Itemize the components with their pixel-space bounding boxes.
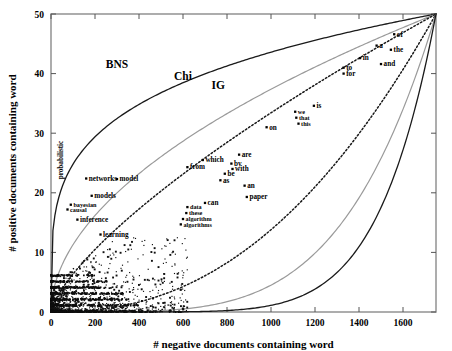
word-label-with: with xyxy=(235,165,249,173)
y-tick-label: 10 xyxy=(35,248,45,258)
word-point-data xyxy=(186,206,188,208)
word-label-from: from xyxy=(190,163,205,171)
y-axis-title: # positive documents containing word xyxy=(6,74,18,251)
x-tick-label: 600 xyxy=(176,318,191,328)
word-point-model xyxy=(116,178,118,180)
word-label-as: as xyxy=(223,177,230,185)
y-tick-label: 20 xyxy=(35,188,45,198)
x-tick-label: 0 xyxy=(49,318,54,328)
word-point-algorithms xyxy=(180,223,182,225)
word-point-we xyxy=(294,111,296,113)
x-tick-label: 1600 xyxy=(394,318,413,328)
chart-container: 0200400600800100012001400160001020304050… xyxy=(0,0,452,351)
word-point-a xyxy=(375,44,377,46)
word-label-in: in xyxy=(363,54,369,62)
word-point-to xyxy=(342,66,344,68)
word-point-on xyxy=(265,126,267,128)
word-point-learning xyxy=(99,233,101,235)
word-point-and xyxy=(380,63,382,65)
word-label-models: models xyxy=(94,192,116,200)
word-point-as xyxy=(219,179,221,181)
y-tick-label: 40 xyxy=(35,69,45,79)
curve-label-Chi: Chi xyxy=(174,70,193,82)
x-tick-label: 800 xyxy=(220,318,235,328)
y-tick-label: 0 xyxy=(39,308,44,318)
word-point-which xyxy=(202,159,204,161)
word-label-paper: paper xyxy=(249,193,268,201)
y-tick-label: 30 xyxy=(35,129,45,139)
word-point-that xyxy=(295,117,297,119)
x-tick-label: 200 xyxy=(88,318,103,328)
word-point-inference xyxy=(76,218,78,220)
word-point-networks xyxy=(85,177,87,179)
word-label-a: a xyxy=(379,42,383,50)
curve-label-BNS: BNS xyxy=(106,58,128,70)
word-label-an: an xyxy=(247,182,255,190)
word-label-for: for xyxy=(346,70,356,78)
word-label-the: the xyxy=(394,46,404,54)
word-point-by xyxy=(230,162,232,164)
word-label-of: of xyxy=(397,31,404,39)
word-point-models xyxy=(91,195,93,197)
x-axis-title: # negative documents containing word xyxy=(153,338,333,350)
x-tick-label: 400 xyxy=(132,318,147,328)
x-tick-label: 1400 xyxy=(350,318,369,328)
word-point-is xyxy=(313,105,315,107)
scatter-plot: 0200400600800100012001400160001020304050… xyxy=(0,0,452,351)
word-label-which: which xyxy=(205,156,223,164)
word-label-model: model xyxy=(120,175,139,183)
word-label-learning: learning xyxy=(103,231,129,239)
word-point-from xyxy=(186,166,188,168)
word-label-algorithms: algorithms xyxy=(183,221,212,228)
y-tick-label: 50 xyxy=(35,10,45,20)
word-point-causal xyxy=(66,208,68,210)
x-tick-label: 1200 xyxy=(306,318,325,328)
word-point-this xyxy=(297,123,299,125)
word-label-is: is xyxy=(317,102,322,110)
word-label-are: are xyxy=(242,151,252,159)
word-point-are xyxy=(238,154,240,156)
word-point-for xyxy=(342,72,344,74)
x-tick-label: 1000 xyxy=(262,318,281,328)
word-point-of xyxy=(393,33,395,35)
word-point-can xyxy=(204,202,206,204)
word-point-be xyxy=(224,173,226,175)
word-point-these xyxy=(185,212,187,214)
word-label-inference: inference xyxy=(80,216,108,224)
word-label-networks: networks xyxy=(89,175,118,183)
word-label-and: and xyxy=(384,60,396,68)
word-label-probabilistic: probabilistic xyxy=(57,140,65,179)
word-point-in xyxy=(359,57,361,59)
word-point-the xyxy=(390,49,392,51)
curve-label-IG: IG xyxy=(211,79,224,91)
word-label-can: can xyxy=(208,199,219,207)
word-point-paper xyxy=(246,196,248,198)
word-label-on: on xyxy=(269,124,277,132)
word-label-causal: causal xyxy=(70,206,87,213)
word-point-an xyxy=(243,185,245,187)
word-label-this: this xyxy=(301,120,311,127)
